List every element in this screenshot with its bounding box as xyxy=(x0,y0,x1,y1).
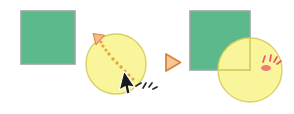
play-triangle-separator-icon xyxy=(166,54,181,71)
illustration-svg xyxy=(0,0,294,114)
before-green-square xyxy=(21,11,75,64)
motion-marks xyxy=(136,83,157,89)
snap-blob xyxy=(261,65,271,71)
before-panel xyxy=(21,11,157,96)
after-panel xyxy=(190,11,282,102)
diagram-canvas: Drag circle onto square corner xyxy=(0,0,294,114)
